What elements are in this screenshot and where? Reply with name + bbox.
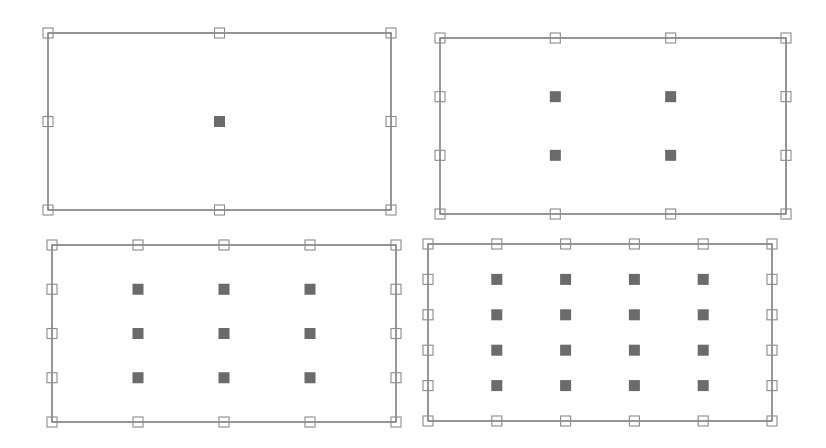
interior-grid-point[interactable] bbox=[698, 380, 709, 391]
control-handle[interactable] bbox=[435, 209, 445, 219]
interior-grid-point[interactable] bbox=[219, 372, 230, 383]
control-handle[interactable] bbox=[391, 284, 401, 294]
control-handle[interactable] bbox=[629, 416, 639, 426]
control-handle[interactable] bbox=[47, 329, 57, 339]
interior-grid-point[interactable] bbox=[305, 372, 316, 383]
panel-4x4-grid bbox=[423, 239, 777, 426]
grid-diagram-canvas bbox=[0, 0, 826, 448]
control-handle[interactable] bbox=[215, 28, 225, 38]
control-handle[interactable] bbox=[386, 117, 396, 127]
panel-2x2-grid bbox=[435, 33, 791, 219]
control-handle[interactable] bbox=[47, 284, 57, 294]
control-handle[interactable] bbox=[781, 33, 791, 43]
interior-grid-point[interactable] bbox=[491, 380, 502, 391]
interior-grid-point[interactable] bbox=[560, 380, 571, 391]
control-handle[interactable] bbox=[767, 381, 777, 391]
control-handle[interactable] bbox=[423, 381, 433, 391]
control-handle[interactable] bbox=[492, 416, 502, 426]
control-handle[interactable] bbox=[767, 345, 777, 355]
control-handle[interactable] bbox=[219, 417, 229, 427]
control-handle[interactable] bbox=[305, 417, 315, 427]
control-handle[interactable] bbox=[423, 274, 433, 284]
control-handle[interactable] bbox=[781, 150, 791, 160]
control-handle[interactable] bbox=[391, 329, 401, 339]
control-handle[interactable] bbox=[423, 239, 433, 249]
control-handle[interactable] bbox=[43, 28, 53, 38]
control-handle[interactable] bbox=[698, 239, 708, 249]
interior-grid-point[interactable] bbox=[491, 345, 502, 356]
control-handle[interactable] bbox=[781, 92, 791, 102]
control-handle[interactable] bbox=[492, 239, 502, 249]
panel-1x1-grid bbox=[43, 28, 396, 215]
control-handle[interactable] bbox=[698, 416, 708, 426]
interior-grid-point[interactable] bbox=[491, 274, 502, 285]
control-handle[interactable] bbox=[47, 417, 57, 427]
control-handle[interactable] bbox=[666, 33, 676, 43]
interior-grid-point[interactable] bbox=[219, 284, 230, 295]
rectangle-frame bbox=[440, 38, 786, 214]
control-handle[interactable] bbox=[133, 417, 143, 427]
control-handle[interactable] bbox=[391, 240, 401, 250]
control-handle[interactable] bbox=[43, 205, 53, 215]
control-handle[interactable] bbox=[43, 117, 53, 127]
interior-grid-point[interactable] bbox=[133, 328, 144, 339]
control-handle[interactable] bbox=[423, 416, 433, 426]
panel-3x3-grid bbox=[47, 240, 401, 427]
interior-grid-point[interactable] bbox=[698, 345, 709, 356]
control-handle[interactable] bbox=[423, 345, 433, 355]
control-handle[interactable] bbox=[435, 150, 445, 160]
interior-grid-point[interactable] bbox=[629, 380, 640, 391]
interior-grid-point[interactable] bbox=[550, 91, 561, 102]
interior-grid-point[interactable] bbox=[133, 372, 144, 383]
control-handle[interactable] bbox=[47, 240, 57, 250]
control-handle[interactable] bbox=[386, 28, 396, 38]
interior-grid-point[interactable] bbox=[550, 150, 561, 161]
interior-grid-point[interactable] bbox=[560, 274, 571, 285]
control-handle[interactable] bbox=[666, 209, 676, 219]
control-handle[interactable] bbox=[767, 310, 777, 320]
control-handle[interactable] bbox=[391, 373, 401, 383]
interior-grid-point[interactable] bbox=[665, 150, 676, 161]
interior-grid-point[interactable] bbox=[665, 91, 676, 102]
control-handle[interactable] bbox=[215, 205, 225, 215]
control-handle[interactable] bbox=[550, 33, 560, 43]
control-handle[interactable] bbox=[767, 416, 777, 426]
interior-grid-point[interactable] bbox=[698, 274, 709, 285]
interior-grid-point[interactable] bbox=[491, 309, 502, 320]
control-handle[interactable] bbox=[219, 240, 229, 250]
interior-grid-point[interactable] bbox=[305, 328, 316, 339]
interior-grid-point[interactable] bbox=[305, 284, 316, 295]
control-handle[interactable] bbox=[561, 239, 571, 249]
control-handle[interactable] bbox=[550, 209, 560, 219]
control-handle[interactable] bbox=[435, 33, 445, 43]
control-handle[interactable] bbox=[561, 416, 571, 426]
control-handle[interactable] bbox=[133, 240, 143, 250]
control-handle[interactable] bbox=[781, 209, 791, 219]
control-handle[interactable] bbox=[435, 92, 445, 102]
rectangle-frame bbox=[428, 244, 772, 421]
interior-grid-point[interactable] bbox=[698, 309, 709, 320]
interior-grid-point[interactable] bbox=[629, 345, 640, 356]
control-handle[interactable] bbox=[47, 373, 57, 383]
interior-grid-point[interactable] bbox=[629, 309, 640, 320]
control-handle[interactable] bbox=[391, 417, 401, 427]
control-handle[interactable] bbox=[305, 240, 315, 250]
interior-grid-point[interactable] bbox=[629, 274, 640, 285]
control-handle[interactable] bbox=[423, 310, 433, 320]
interior-grid-point[interactable] bbox=[560, 345, 571, 356]
control-handle[interactable] bbox=[767, 239, 777, 249]
control-handle[interactable] bbox=[386, 205, 396, 215]
interior-grid-point[interactable] bbox=[219, 328, 230, 339]
interior-grid-point[interactable] bbox=[214, 116, 225, 127]
interior-grid-point[interactable] bbox=[133, 284, 144, 295]
control-handle[interactable] bbox=[629, 239, 639, 249]
interior-grid-point[interactable] bbox=[560, 309, 571, 320]
control-handle[interactable] bbox=[767, 274, 777, 284]
